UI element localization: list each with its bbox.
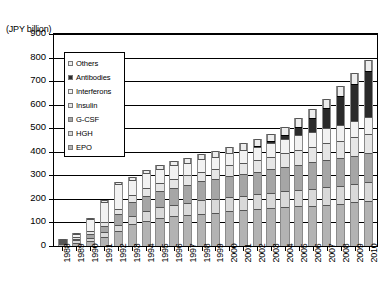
chart-figure: (JPY billion) 01002003004005006007008009… (0, 0, 391, 297)
bar-segment (323, 143, 330, 159)
bar-segment (156, 183, 163, 191)
bar-segment (212, 179, 219, 199)
bar-slot (181, 34, 195, 246)
bar-segment (267, 208, 274, 246)
bar-segment (281, 139, 288, 153)
bar-segment (156, 169, 163, 183)
bar-segment (226, 165, 233, 176)
x-axis-label-slot: 2002 (250, 252, 264, 296)
y-axis-tick-label: 400 (6, 145, 46, 156)
bar-segment (129, 216, 136, 224)
x-axis-label-slot: 1990 (83, 252, 97, 296)
bar-segment (309, 132, 316, 147)
bar-segment (184, 215, 191, 246)
bar-segment (351, 121, 358, 137)
x-axis-label-slot: 2003 (264, 252, 278, 296)
bar-slot (292, 34, 306, 246)
legend-label: EPO (76, 143, 92, 152)
x-axis-label-slot: 1994 (139, 252, 153, 296)
bar-segment (309, 206, 316, 247)
bar-segment (267, 169, 274, 193)
x-axis-label-slot: 1995 (153, 252, 167, 296)
y-axis-tick-label: 800 (6, 51, 46, 62)
stacked-bar (336, 86, 345, 246)
legend-item: Others (68, 56, 124, 70)
bar-segment (240, 143, 247, 150)
bar-slot (264, 34, 278, 246)
bar-slot (167, 34, 181, 246)
bar-segment (295, 135, 302, 150)
bar-segment (184, 203, 191, 215)
bar-segment (323, 160, 330, 187)
stacked-bar (322, 99, 331, 246)
x-axis-tick-label: 2010 (369, 243, 379, 262)
bar-slot (153, 34, 167, 246)
y-axis-tick-label: 300 (6, 168, 46, 179)
bar-slot (306, 34, 320, 246)
bar-segment (226, 211, 233, 246)
bar-segment (351, 137, 358, 155)
bar-segment (351, 184, 358, 202)
bar-segment (226, 176, 233, 197)
x-axis-label-slot: 2010 (362, 252, 376, 296)
bar-segment (129, 180, 136, 196)
bar-segment (323, 205, 330, 246)
legend-label: Antibodies (76, 73, 110, 82)
legend-swatch-icon (68, 117, 73, 122)
stacked-bar (266, 134, 275, 246)
bar-segment (156, 218, 163, 246)
stacked-bar (350, 73, 359, 246)
bar-segment (101, 202, 108, 222)
bar-segment (365, 117, 372, 134)
bar-slot (320, 34, 334, 246)
legend-swatch-icon (68, 89, 73, 94)
bar-segment (87, 219, 94, 232)
bar-segment (254, 209, 261, 246)
y-axis-tick-label: 0 (6, 239, 46, 250)
stacked-bar (169, 161, 178, 246)
x-axis-label-slot: 1996 (167, 252, 181, 296)
stacked-bar (128, 177, 137, 246)
legend: OthersAntibodiesInterferonsInsulinG-CSFH… (64, 52, 125, 157)
bar-segment (309, 189, 316, 206)
bar-segment (295, 190, 302, 206)
bar-segment (198, 214, 205, 247)
bar-segment (281, 207, 288, 246)
bar-segment (143, 188, 150, 196)
bar-segment (267, 143, 274, 157)
bar-segment (337, 186, 344, 204)
bar-segment (226, 153, 233, 165)
bar-segment (212, 169, 219, 179)
bar-segment (337, 125, 344, 141)
y-axis-tick-label: 200 (6, 192, 46, 203)
bar-segment (351, 156, 358, 184)
bar-segment (351, 73, 358, 83)
bar-segment (295, 206, 302, 246)
bar-segment (184, 185, 191, 203)
bar-segment (240, 150, 247, 163)
bar-segment (129, 195, 136, 202)
x-axis-labels: 1988198919901991199219931994199519961997… (53, 252, 378, 296)
legend-item: G-CSF (68, 112, 124, 126)
y-axis-tick-label: 600 (6, 98, 46, 109)
x-axis-label-slot: 1997 (181, 252, 195, 296)
y-axis-tick-label: 100 (6, 215, 46, 226)
bar-segment (365, 60, 372, 71)
stacked-bar (114, 182, 123, 246)
bar-segment (281, 167, 288, 191)
bar-segment (365, 201, 372, 246)
bar-segment (254, 160, 261, 172)
stacked-bar (225, 147, 234, 246)
bar-segment (295, 127, 302, 135)
bar-segment (309, 147, 316, 163)
bar-slot (361, 34, 375, 246)
x-axis-label-slot: 1992 (111, 252, 125, 296)
legend-item: HGH (68, 126, 124, 140)
bar-segment (365, 153, 372, 182)
bar-segment (337, 141, 344, 158)
bar-segment (240, 163, 247, 174)
bar-segment (143, 196, 150, 211)
x-axis-label-slot: 2001 (236, 252, 250, 296)
bar-segment (198, 172, 205, 182)
bar-slot (334, 34, 348, 246)
